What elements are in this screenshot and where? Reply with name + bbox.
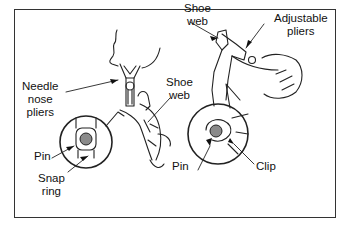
label-clip: Clip [256, 160, 276, 173]
label-pin-left: Pin [34, 150, 51, 163]
label-needle-nose-pliers: Needle nose pliers [22, 80, 58, 119]
right-pin [210, 125, 222, 137]
label-shoe-web-right: Shoe web [184, 2, 211, 28]
right-hand-pliers [188, 30, 302, 164]
label-adjustable-pliers: Adjustable pliers [274, 12, 328, 38]
left-hand-pliers [60, 30, 170, 168]
left-pin [80, 133, 92, 145]
label-shoe-web-left: Shoe web [166, 76, 193, 102]
label-snap-ring: Snap ring [38, 172, 65, 198]
label-pin-right: Pin [172, 160, 189, 173]
